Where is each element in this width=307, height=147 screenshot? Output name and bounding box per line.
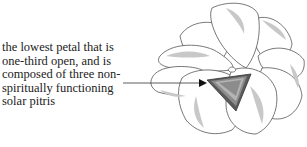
lotus-diagram (0, 0, 307, 147)
lotus-petals (151, 3, 304, 134)
